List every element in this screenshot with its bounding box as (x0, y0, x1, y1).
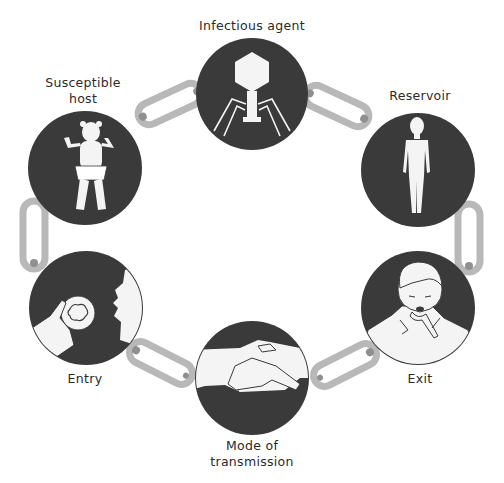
chain-of-infection-diagram: Infectious agent Susceptible host Reserv… (0, 0, 504, 483)
node-mode-of-transmission (190, 321, 320, 435)
label-mode-line1: Mode of (182, 438, 322, 454)
label-mode-line2: transmission (182, 454, 322, 470)
node-reservoir (361, 113, 475, 227)
chain-link-transmission-entry (126, 338, 197, 388)
node-infectious-agent (196, 38, 308, 150)
node-susceptible-host (28, 111, 142, 225)
label-entry: Entry (45, 371, 125, 387)
chain-link-agent-reservoir (302, 82, 373, 131)
label-susceptible-host-line1: Susceptible (18, 75, 148, 91)
label-exit: Exit (380, 371, 460, 387)
chain-link-exit-transmission (310, 340, 381, 390)
label-susceptible-host: Susceptible host (18, 75, 148, 107)
label-reservoir: Reservoir (365, 88, 475, 104)
chain-link-entry-host (23, 201, 45, 269)
label-susceptible-host-line2: host (18, 91, 148, 107)
chain-link-reservoir-exit (458, 204, 480, 272)
label-infectious-agent: Infectious agent (182, 18, 322, 34)
label-mode-of-transmission: Mode of transmission (182, 438, 322, 470)
